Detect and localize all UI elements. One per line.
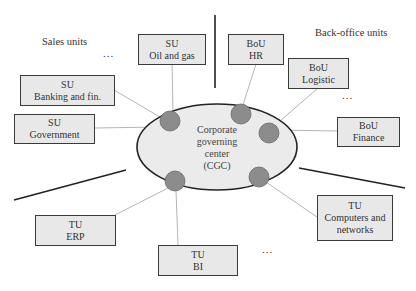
- tu-bi-box: TU BI: [158, 245, 238, 276]
- tu-computers-box: TU Computers and networks: [317, 195, 393, 241]
- unit-name: ERP: [66, 231, 84, 243]
- ellipsis-backoffice: ...: [342, 89, 353, 101]
- cgc-line-2: governing: [177, 136, 257, 148]
- cgc-line-4: (CGC): [177, 160, 257, 172]
- unit-name-line2: networks: [337, 224, 374, 236]
- unit-type: SU: [61, 79, 74, 91]
- cgc-line-3: center: [177, 148, 257, 160]
- sales-units-label: Sales units: [42, 36, 87, 47]
- unit-type: TU: [191, 249, 204, 261]
- bou-hr-box: BoU HR: [228, 34, 284, 65]
- unit-name: Banking and fin.: [34, 91, 101, 103]
- separator-left: [14, 170, 126, 200]
- cgc-line-1: Corporate: [177, 124, 257, 136]
- unit-type: BoU: [359, 120, 378, 132]
- backoffice-units-label: Back-office units: [315, 27, 387, 38]
- su-oil-and-gas-box: SU Oil and gas: [138, 34, 206, 65]
- unit-type: TU: [348, 200, 361, 212]
- node-tu-erp: [165, 171, 185, 191]
- bou-finance-box: BoU Finance: [337, 117, 400, 147]
- unit-name: Finance: [353, 132, 385, 144]
- bou-logistic-box: BoU Logistic: [288, 58, 349, 89]
- ellipsis-sales: ...: [103, 47, 114, 59]
- unit-type: SU: [166, 38, 179, 50]
- su-government-box: SU Government: [14, 114, 95, 144]
- unit-type: TU: [69, 219, 82, 231]
- ellipsis-technical: ...: [262, 243, 273, 255]
- su-banking-box: SU Banking and fin.: [20, 75, 115, 106]
- unit-name: Government: [30, 129, 80, 141]
- separator-right: [299, 168, 405, 188]
- unit-type: SU: [48, 117, 61, 129]
- cgc-label: Corporate governing center (CGC): [177, 124, 257, 172]
- node-bou-hr: [231, 104, 251, 124]
- unit-name: HR: [249, 50, 263, 62]
- unit-type: BoU: [309, 62, 328, 74]
- tu-erp-box: TU ERP: [35, 215, 116, 246]
- unit-type: BoU: [247, 38, 266, 50]
- node-bou-finance: [259, 123, 279, 143]
- unit-name: BI: [193, 261, 203, 273]
- unit-name: Oil and gas: [149, 50, 195, 62]
- unit-name: Computers and: [325, 212, 386, 224]
- unit-name: Logistic: [302, 74, 335, 86]
